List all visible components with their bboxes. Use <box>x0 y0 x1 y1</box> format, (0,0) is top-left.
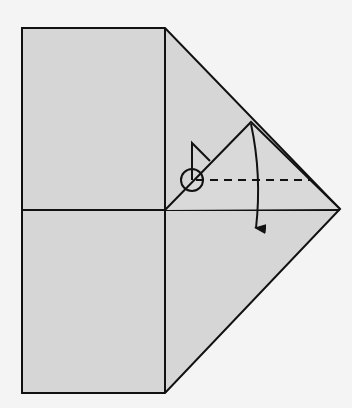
origami-diagram <box>0 0 352 408</box>
